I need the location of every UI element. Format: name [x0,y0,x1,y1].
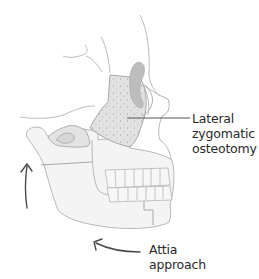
curved-arrow-up-icon [21,164,32,208]
label-line: Attia [149,242,206,257]
label-line: osteotomy [192,141,257,156]
label-line: Lateral [192,111,257,126]
label-attia-approach: Attia approach [149,242,206,272]
label-line: zygomatic [192,126,257,141]
curved-arrow-left-icon [94,239,140,252]
label-lateral-zygomatic-osteotomy: Lateral zygomatic osteotomy [192,111,257,156]
teeth [105,168,172,202]
label-line: approach [149,257,206,272]
